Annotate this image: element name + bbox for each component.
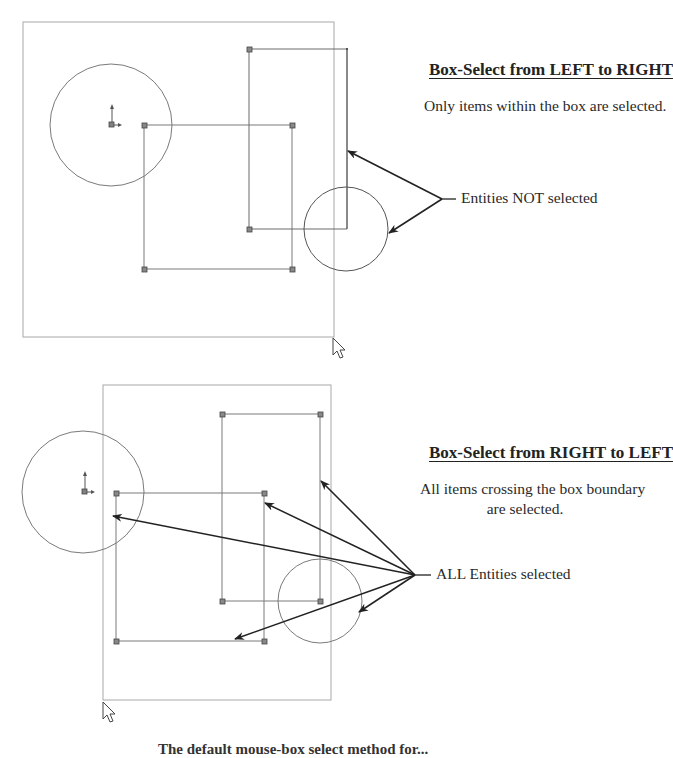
footer-caption: The default mouse-box select method for.… [158, 741, 428, 758]
cursor-icon [333, 338, 345, 358]
bottom-panel-description-line2: are selected. [420, 500, 630, 518]
selection-box-left-to-right[interactable] [23, 22, 334, 337]
bottom-sketch [22, 385, 362, 722]
origin-icon [82, 471, 95, 494]
bottom-panel-description-line1: All items crossing the box boundary [420, 480, 630, 498]
cursor-icon [103, 702, 115, 722]
rectangle-a-entity[interactable] [114, 491, 267, 644]
rectangle-a-entity[interactable] [142, 123, 295, 272]
selection-box-right-to-left[interactable] [103, 385, 331, 700]
callout-arrows-bottom [113, 481, 431, 639]
rectangle-b-entity[interactable] [220, 412, 323, 604]
top-panel-title: Box-Select from LEFT to RIGHT [429, 60, 673, 80]
top-callout-label: Entities NOT selected [461, 189, 598, 207]
rectangle-b-entity[interactable] [247, 47, 348, 232]
callout-arrows-top [348, 151, 456, 233]
top-sketch [23, 22, 388, 358]
origin-icon [109, 104, 122, 127]
bottom-callout-label: ALL Entities selected [436, 565, 571, 583]
bottom-panel-title: Box-Select from RIGHT to LEFT [429, 443, 673, 463]
top-panel-description: Only items within the box are selected. [424, 97, 666, 115]
